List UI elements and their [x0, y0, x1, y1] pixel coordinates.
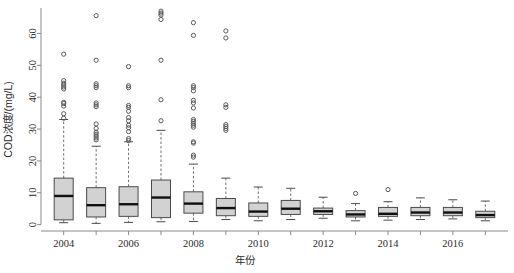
y-tick-label: 0: [28, 222, 39, 227]
box-group: [216, 29, 235, 220]
outlier-point: [191, 21, 195, 25]
y-tick-label: 10: [28, 188, 39, 199]
outlier-point: [191, 33, 195, 37]
outlier-point: [94, 122, 98, 126]
box-group: [184, 21, 203, 222]
box-body: [119, 187, 138, 217]
y-tick-label: 20: [28, 156, 39, 167]
box-group: [346, 191, 365, 220]
box-body: [379, 207, 398, 216]
outlier-point: [191, 106, 195, 110]
box-body: [54, 178, 73, 220]
box-group: [87, 14, 106, 224]
outlier-point: [159, 98, 163, 102]
y-axis-group: 0102030405060: [28, 8, 42, 227]
box-group: [54, 52, 73, 223]
y-tick-label: 40: [28, 92, 39, 103]
y-tick-label: 60: [28, 28, 39, 39]
box-plot-chart: 0102030405060 20042006200820102012201420…: [0, 0, 514, 273]
x-tick-label: 2016: [442, 238, 463, 249]
x-axis-ticks: 2004200620082010201220142016: [53, 231, 485, 249]
outlier-point: [386, 187, 390, 191]
box-body: [249, 203, 268, 216]
outlier-point: [159, 58, 163, 62]
x-axis-title: 年份: [235, 254, 256, 266]
x-tick-label: 2012: [313, 238, 334, 249]
box-group: [151, 9, 170, 222]
boxes-layer: [54, 9, 495, 223]
box-group: [119, 65, 138, 223]
box-body: [281, 200, 300, 214]
outlier-point: [159, 17, 163, 21]
y-axis-ticks: 0102030405060: [28, 28, 42, 227]
box-body: [87, 188, 106, 217]
outlier-point: [94, 58, 98, 62]
outlier-point: [159, 119, 163, 123]
box-body: [151, 180, 170, 218]
outlier-point: [94, 14, 98, 18]
y-tick-label: 50: [28, 60, 39, 71]
box-group: [379, 187, 398, 220]
box-group: [443, 200, 462, 219]
y-tick-label: 30: [28, 124, 39, 135]
x-tick-label: 2004: [53, 238, 75, 249]
x-tick-label: 2006: [118, 238, 139, 249]
x-tick-label: 2010: [248, 238, 269, 249]
box-group: [314, 197, 333, 218]
outlier-point: [224, 29, 228, 33]
x-axis-group: 2004200620082010201220142016: [41, 231, 508, 249]
box-group: [411, 198, 430, 220]
x-tick-label: 2014: [378, 238, 400, 249]
box-group: [281, 188, 300, 219]
y-axis-title: COD浓度/(mg/L): [2, 81, 14, 158]
outlier-point: [353, 191, 357, 195]
outlier-point: [224, 36, 228, 40]
box-group: [476, 201, 495, 221]
x-tick-label: 2008: [183, 238, 204, 249]
outlier-point: [62, 112, 66, 116]
outlier-point: [126, 65, 130, 69]
outlier-point: [62, 52, 66, 56]
plot-canvas: 0102030405060 20042006200820102012201420…: [0, 0, 514, 273]
box-group: [249, 187, 268, 221]
